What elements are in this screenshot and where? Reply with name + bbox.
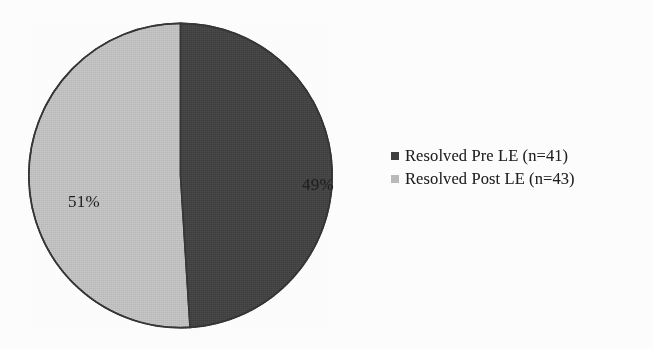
pie-chart-svg: [28, 21, 333, 330]
legend-swatch-square-icon: [391, 152, 399, 160]
legend-label-resolved-post-le: Resolved Post LE (n=43): [405, 169, 575, 189]
pie-chart-plot-area: 49% 51%: [28, 21, 333, 330]
pie-data-label-resolved-pre-le: 49%: [302, 176, 334, 193]
pie-chart-figure: 49% 51% Resolved Pre LE (n=41) Resolved …: [0, 0, 653, 349]
legend-swatch-square-icon: [391, 175, 399, 183]
legend-item-resolved-post-le[interactable]: Resolved Post LE (n=43): [391, 167, 575, 190]
pie-slice-resolved-post-le[interactable]: [29, 23, 190, 327]
chart-legend: Resolved Pre LE (n=41) Resolved Post LE …: [391, 144, 575, 190]
legend-label-resolved-pre-le: Resolved Pre LE (n=41): [405, 146, 568, 166]
legend-item-resolved-pre-le[interactable]: Resolved Pre LE (n=41): [391, 144, 575, 167]
pie-data-label-resolved-post-le: 51%: [68, 193, 100, 210]
